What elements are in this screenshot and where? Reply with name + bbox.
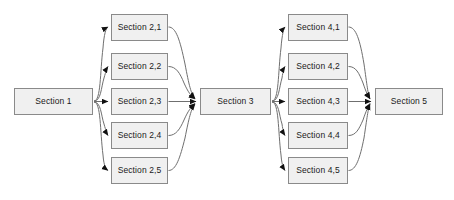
- node-label: Section 4,5: [296, 166, 340, 175]
- node-label: Section 2,1: [118, 23, 162, 32]
- node-section-4-4[interactable]: Section 4,4: [288, 122, 348, 149]
- node-section-2-2[interactable]: Section 2,2: [111, 53, 168, 80]
- edge-s2-4-s3: [169, 104, 196, 136]
- edge-group-section3-to-section4: [272, 27, 285, 171]
- edge-s2-2-s3: [169, 67, 196, 100]
- node-label: Section 2,2: [118, 62, 162, 71]
- edge-s1-s2-1: [94, 27, 108, 101]
- edge-group-section1-to-section2: [94, 27, 108, 171]
- node-section-2-3[interactable]: Section 2,3: [111, 88, 168, 115]
- edge-s4-4-s5: [349, 104, 371, 136]
- node-label: Section 4,3: [296, 97, 340, 106]
- edge-s1-s2-5: [94, 102, 108, 171]
- node-section-1[interactable]: Section 1: [14, 88, 93, 115]
- edge-s4-5-s5: [349, 104, 371, 171]
- node-label: Section 4,1: [296, 23, 340, 32]
- edge-s2-1-s3: [169, 27, 196, 99]
- edge-s1-s2-2: [94, 67, 108, 102]
- node-label: Section 4,2: [296, 62, 340, 71]
- edge-s3-s4-1: [272, 27, 285, 101]
- node-section-4-1[interactable]: Section 4,1: [288, 14, 348, 41]
- node-label: Section 2,3: [118, 97, 162, 106]
- edge-s3-s4-4: [272, 102, 285, 136]
- edge-s4-1-s5: [349, 27, 371, 99]
- node-section-4-2[interactable]: Section 4,2: [288, 53, 348, 80]
- node-section-4-5[interactable]: Section 4,5: [288, 157, 348, 184]
- node-label: Section 3: [217, 97, 253, 106]
- node-label: Section 2,5: [118, 166, 162, 175]
- node-label: Section 5: [391, 97, 427, 106]
- node-section-2-4[interactable]: Section 2,4: [111, 122, 168, 149]
- edge-s4-2-s5: [349, 67, 371, 100]
- node-label: Section 1: [35, 97, 71, 106]
- node-section-4-3[interactable]: Section 4,3: [288, 88, 348, 115]
- edge-s1-s2-4: [94, 102, 108, 136]
- node-label: Section 4,4: [296, 131, 340, 140]
- node-section-2-1[interactable]: Section 2,1: [111, 14, 168, 41]
- node-section-5[interactable]: Section 5: [375, 88, 443, 115]
- edge-s3-s4-2: [272, 67, 285, 102]
- edge-s2-5-s3: [169, 104, 196, 171]
- node-section-2-5[interactable]: Section 2,5: [111, 157, 168, 184]
- flowchart-diagram: Section 1 Section 2,1 Section 2,2 Sectio…: [0, 0, 454, 200]
- edge-s3-s4-5: [272, 102, 285, 171]
- edge-group-section2-to-section3: [169, 27, 197, 171]
- node-label: Section 2,4: [118, 131, 162, 140]
- edge-group-section4-to-section5: [349, 27, 372, 171]
- node-section-3[interactable]: Section 3: [200, 88, 271, 115]
